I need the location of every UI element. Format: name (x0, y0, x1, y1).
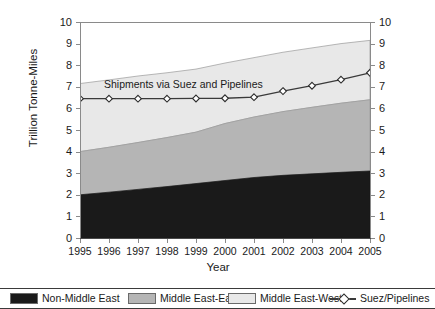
y-axis-right-tick (371, 108, 375, 109)
y-axis-right-tick (371, 216, 375, 217)
x-axis-tick (254, 239, 255, 243)
x-axis-tick (225, 239, 226, 243)
y-axis-left-tick (76, 130, 80, 131)
y-axis-right-tick-label: 10 (379, 17, 405, 28)
y-axis-left-tick (76, 87, 80, 88)
x-axis-tick (167, 239, 168, 243)
y-axis-right-tick (371, 130, 375, 131)
chart-annotation-shipments: Shipments via Suez and Pipelines (104, 78, 263, 90)
legend-item-middle-east-east[interactable]: Middle East-East (128, 293, 239, 304)
y-axis-right-tick-label: 9 (379, 38, 405, 49)
legend-item-middle-east-west[interactable]: Middle East-West (228, 293, 342, 304)
area-chart: 109876543210 109876543210 19951996199719… (0, 0, 435, 280)
legend-item-suez-pipelines[interactable]: Suez/Pipelines (330, 293, 429, 304)
y-axis-right-tick (371, 22, 375, 23)
x-axis-tick (80, 239, 81, 243)
x-axis-tick (109, 239, 110, 243)
x-axis-tick (283, 239, 284, 243)
y-axis-left-tick (76, 65, 80, 66)
y-axis-right-tick-label: 4 (379, 146, 405, 157)
y-axis-left-tick-label: 1 (46, 211, 72, 222)
y-axis-right-tick-label: 8 (379, 60, 405, 71)
y-axis-left-tick (76, 22, 80, 23)
y-axis-left-tick-label: 6 (46, 103, 72, 114)
y-axis-right-tick-label: 6 (379, 103, 405, 114)
y-axis-right-tick (371, 87, 375, 88)
y-axis-left-tick (76, 44, 80, 45)
x-axis-tick (341, 239, 342, 243)
x-axis-tick (312, 239, 313, 243)
y-axis-left-tick (76, 152, 80, 153)
y-axis-left-line (80, 22, 81, 239)
x-axis-tick-label: 2005 (353, 246, 387, 257)
legend-label: Non-Middle East (42, 293, 120, 304)
y-axis-left-tick-label: 7 (46, 81, 72, 92)
x-axis-tick (196, 239, 197, 243)
y-axis-left-tick-label: 9 (46, 38, 72, 49)
y-axis-right-tick-label: 7 (379, 81, 405, 92)
y-axis-title: Trillion Tonne-Miles (27, 23, 39, 173)
y-axis-left-tick-label: 0 (46, 233, 72, 244)
legend-item-non-middle-east[interactable]: Non-Middle East (10, 293, 120, 304)
y-axis-left-tick-label: 8 (46, 60, 72, 71)
y-axis-left-tick-label: 3 (46, 168, 72, 179)
y-axis-right-tick (371, 44, 375, 45)
x-axis-tick (370, 239, 371, 243)
legend-color-swatch (228, 293, 256, 304)
y-axis-right-tick-label: 1 (379, 211, 405, 222)
legend-label: Suez/Pipelines (360, 293, 429, 304)
x-axis-title: Year (168, 261, 268, 273)
y-axis-right-tick (371, 195, 375, 196)
y-axis-right-tick-label: 3 (379, 168, 405, 179)
y-axis-left-tick-label: 2 (46, 189, 72, 200)
chart-legend: Non-Middle EastMiddle East-EastMiddle Ea… (0, 288, 435, 309)
y-axis-right-tick (371, 65, 375, 66)
y-axis-left-tick (76, 173, 80, 174)
y-axis-right-tick-label: 0 (379, 233, 405, 244)
legend-line-marker-icon (330, 294, 356, 303)
x-axis-tick (138, 239, 139, 243)
y-axis-left-tick-label: 5 (46, 125, 72, 136)
legend-color-swatch (128, 293, 156, 304)
y-axis-left-tick (76, 195, 80, 196)
y-axis-right-tick (371, 152, 375, 153)
y-axis-left-tick-label: 10 (46, 17, 72, 28)
y-axis-right-tick-label: 2 (379, 189, 405, 200)
legend-color-swatch (10, 293, 38, 304)
y-axis-right-tick (371, 173, 375, 174)
plot-canvas (80, 22, 370, 238)
y-axis-right-tick (371, 238, 375, 239)
y-axis-right-tick-label: 5 (379, 125, 405, 136)
y-axis-left-tick (76, 216, 80, 217)
y-axis-left-tick-label: 4 (46, 146, 72, 157)
y-axis-left-tick (76, 108, 80, 109)
plot-top-border (80, 22, 371, 23)
